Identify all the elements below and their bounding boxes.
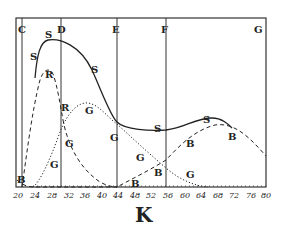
x-tick: 28 — [46, 191, 57, 200]
curve-g — [33, 103, 208, 187]
marker-label-f: F — [161, 24, 168, 35]
x-tick: 68 — [213, 191, 223, 200]
label-s-5: S — [203, 114, 210, 125]
x-tick: 32 — [64, 191, 74, 200]
label-g-1: G — [85, 105, 94, 116]
label-b-3: B — [154, 167, 162, 178]
x-tick: 52 — [146, 191, 156, 200]
marker-label-d: D — [57, 24, 66, 35]
marker-label-e: E — [112, 24, 120, 35]
label-r-2: R — [61, 102, 70, 113]
x-tick: 40 — [96, 191, 107, 200]
x-tick: 76 — [246, 191, 256, 200]
x-axis-title: K — [135, 203, 153, 227]
x-tick: 24 — [29, 191, 40, 200]
marker-label-g: G — [254, 24, 263, 35]
label-r-1: R — [45, 69, 54, 80]
label-g-3: G — [50, 159, 59, 170]
label-b-2: B — [131, 178, 139, 189]
label-g-4: G — [110, 132, 119, 143]
label-s-2: S — [45, 29, 52, 40]
x-tick: 56 — [163, 191, 173, 200]
label-s-4: S — [154, 123, 161, 134]
curve-r — [22, 70, 117, 187]
label-b-1: B — [17, 174, 25, 185]
label-b-5: B — [228, 131, 236, 142]
label-g-5: G — [136, 152, 145, 163]
label-g-2: G — [65, 138, 74, 149]
x-tick: 20 — [12, 191, 23, 200]
spectral-curves-chart: C D E F G S S S S S R R G G G G G G B B … — [0, 0, 287, 228]
x-tick: 72 — [229, 191, 239, 200]
marker-label-c: C — [18, 24, 26, 35]
label-s-1: S — [30, 51, 37, 62]
x-axis-ticks: 20 24 28 32 36 40 44 48 52 56 60 64 68 7… — [12, 191, 271, 200]
x-tick: 36 — [80, 191, 90, 200]
x-tick: 60 — [180, 191, 190, 200]
x-tick: 44 — [112, 191, 123, 200]
label-b-4: B — [186, 138, 194, 149]
label-s-3: S — [91, 64, 98, 75]
x-tick: 80 — [261, 191, 271, 200]
x-tick: 48 — [129, 191, 140, 200]
label-g-6: G — [186, 169, 195, 180]
x-tick: 64 — [196, 191, 206, 200]
